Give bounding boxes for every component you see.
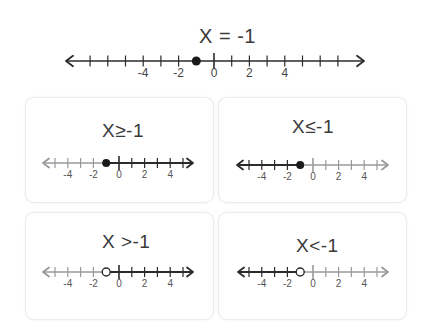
tick-label: -4 xyxy=(257,171,266,182)
tick-label: 0 xyxy=(310,171,316,182)
tick-label: -4 xyxy=(63,278,72,289)
open-point-icon xyxy=(102,268,110,276)
tick-label: 0 xyxy=(116,278,122,289)
tick-label: -4 xyxy=(138,66,149,80)
tick-label: -2 xyxy=(89,278,98,289)
tick-label: -2 xyxy=(89,169,98,180)
tick-label: -2 xyxy=(173,66,184,80)
tick-label: 4 xyxy=(167,169,173,180)
closed-point-icon xyxy=(192,57,201,66)
tick-label: 2 xyxy=(336,171,342,182)
tick-label: 4 xyxy=(361,171,367,182)
tick-label: 4 xyxy=(361,278,367,289)
tick-label: -2 xyxy=(283,171,292,182)
tick-label: 2 xyxy=(142,169,148,180)
tick-label: 0 xyxy=(211,66,218,80)
tick-label: 2 xyxy=(336,278,342,289)
tick-label: 0 xyxy=(310,278,316,289)
number-lines: -4-2024-4-2024-4-2024-4-2024-4-2024 xyxy=(0,0,438,332)
closed-point-icon xyxy=(102,159,110,167)
closed-point-icon xyxy=(296,161,304,169)
tick-label: -4 xyxy=(257,278,266,289)
tick-label: 4 xyxy=(281,66,288,80)
tick-label: 0 xyxy=(116,169,122,180)
tick-label: 2 xyxy=(142,278,148,289)
tick-label: 2 xyxy=(246,66,253,80)
tick-label: 4 xyxy=(167,278,173,289)
tick-label: -2 xyxy=(283,278,292,289)
tick-label: -4 xyxy=(63,169,72,180)
open-point-icon xyxy=(296,268,304,276)
